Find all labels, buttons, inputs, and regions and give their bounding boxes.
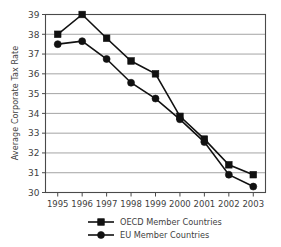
legend-item: EU Member Countries xyxy=(88,230,209,240)
data-point-marker xyxy=(103,35,110,42)
y-tick-label: 37 xyxy=(28,49,39,59)
y-tick-label: 31 xyxy=(28,168,39,178)
circle-marker-icon xyxy=(98,232,105,239)
x-tick-label: 1999 xyxy=(145,199,167,209)
series-line xyxy=(58,41,254,186)
series-line xyxy=(58,15,254,175)
legend-item: OECD Member Countries xyxy=(88,217,222,227)
chart-plot-svg: 30313233343536373839 1995199619971998199… xyxy=(0,0,281,247)
x-tick-label: 2001 xyxy=(194,199,216,209)
data-point-marker xyxy=(79,11,86,18)
data-point-marker xyxy=(54,31,61,38)
x-tick-label: 2003 xyxy=(242,199,264,209)
data-point-marker xyxy=(54,41,61,48)
data-point-marker xyxy=(128,58,135,65)
y-axis-ticks: 30313233343536373839 xyxy=(28,10,45,198)
square-marker-icon xyxy=(98,219,105,226)
y-tick-label: 35 xyxy=(28,89,39,99)
x-tick-label: 1998 xyxy=(120,199,142,209)
data-point-marker xyxy=(103,56,110,63)
x-axis-ticks: 199519961997199819992000200120022003 xyxy=(47,193,264,209)
legend-label: OECD Member Countries xyxy=(120,217,222,227)
chart-container: Average Corporate Tax Rate 3031323334353… xyxy=(0,0,281,247)
data-point-marker xyxy=(176,116,183,123)
chart-legend: OECD Member CountriesEU Member Countries xyxy=(88,217,222,240)
x-tick-label: 2000 xyxy=(169,199,191,209)
data-point-marker xyxy=(226,162,233,169)
data-series-group xyxy=(54,11,257,190)
y-tick-label: 39 xyxy=(28,10,40,20)
x-tick-label: 1997 xyxy=(96,199,118,209)
y-tick-label: 34 xyxy=(28,109,40,119)
y-tick-label: 33 xyxy=(28,128,39,138)
data-point-marker xyxy=(79,38,86,45)
y-tick-label: 36 xyxy=(28,69,40,79)
y-tick-label: 30 xyxy=(28,188,40,198)
x-tick-label: 1995 xyxy=(47,199,69,209)
y-tick-label: 32 xyxy=(28,148,39,158)
data-point-marker xyxy=(152,71,159,78)
x-tick-label: 2002 xyxy=(218,199,240,209)
y-tick-label: 38 xyxy=(28,30,40,40)
data-point-marker xyxy=(128,79,135,86)
data-point-marker xyxy=(152,95,159,102)
x-tick-label: 1996 xyxy=(71,199,93,209)
data-point-marker xyxy=(250,183,257,190)
gridlines xyxy=(46,34,266,172)
data-point-marker xyxy=(201,139,208,146)
data-point-marker xyxy=(250,171,257,178)
data-point-marker xyxy=(225,171,232,178)
legend-label: EU Member Countries xyxy=(120,230,209,240)
